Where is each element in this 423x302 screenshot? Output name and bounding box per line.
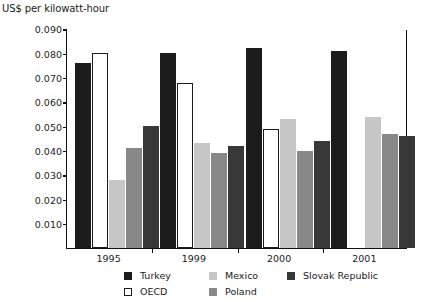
legend-item-slovak-republic[interactable]: Slovak Republic (287, 271, 407, 281)
legend-item-mexico[interactable]: Mexico (209, 271, 287, 281)
bar-group-bars (323, 30, 416, 248)
legend-item-oecd[interactable]: OECD (124, 287, 209, 297)
bar-group-bars (152, 30, 245, 248)
legend-label: OECD (140, 287, 167, 297)
bar-mexico-2001[interactable] (365, 117, 381, 248)
legend-label: Mexico (225, 271, 258, 281)
bar-oecd-1995[interactable] (92, 53, 108, 248)
legend-swatch-icon (209, 288, 217, 296)
bar-group-bars (67, 30, 160, 248)
bar-mexico-1999[interactable] (194, 143, 210, 248)
bar-oecd-1999[interactable] (177, 83, 193, 248)
bar-group (152, 30, 237, 248)
bar-group (67, 30, 152, 248)
bar-turkey-1999[interactable] (160, 53, 176, 248)
legend-swatch-icon (124, 288, 132, 296)
x-axis-label-2001: 2001 (322, 253, 407, 264)
bar-poland-2001[interactable] (382, 134, 398, 248)
plot-area: 0.0900.0800.0700.0600.0500.0400.0300.020… (66, 30, 407, 249)
bar-turkey-2001[interactable] (331, 51, 347, 248)
legend-label: Turkey (140, 271, 171, 281)
bar-group (238, 30, 323, 248)
bar-turkey-1995[interactable] (75, 63, 91, 248)
bar-group (323, 30, 408, 248)
chart-legend: TurkeyMexicoSlovak RepublicOECDPoland (124, 268, 414, 300)
legend-swatch-icon (124, 272, 132, 280)
bar-poland-1999[interactable] (211, 153, 227, 248)
bar-group-bars (238, 30, 331, 248)
bar-mexico-1995[interactable] (109, 180, 125, 248)
bar-poland-2000[interactable] (297, 151, 313, 248)
bar-poland-1995[interactable] (126, 148, 142, 248)
x-axis-label-2000: 2000 (237, 253, 322, 264)
legend-row: OECDPoland (124, 284, 414, 300)
bar-slovak-republic-2001[interactable] (399, 136, 415, 248)
chart-figure: US$ per kilowatt-hour 0.0900.0800.0700.0… (0, 0, 423, 302)
legend-item-turkey[interactable]: Turkey (124, 271, 209, 281)
bar-turkey-2000[interactable] (246, 48, 262, 248)
legend-row: TurkeyMexicoSlovak Republic (124, 268, 414, 284)
legend-swatch-icon (209, 272, 217, 280)
bar-mexico-2000[interactable] (280, 119, 296, 248)
legend-label: Slovak Republic (303, 271, 378, 281)
legend-swatch-icon (287, 272, 295, 280)
bar-oecd-2000[interactable] (263, 129, 279, 248)
x-axis-label-1995: 1995 (66, 253, 151, 264)
legend-label: Poland (225, 287, 257, 297)
bars-layer (67, 30, 406, 248)
x-axis-label-1999: 1999 (151, 253, 236, 264)
y-axis-title: US$ per kilowatt-hour (2, 3, 109, 14)
legend-item-poland[interactable]: Poland (209, 287, 287, 297)
